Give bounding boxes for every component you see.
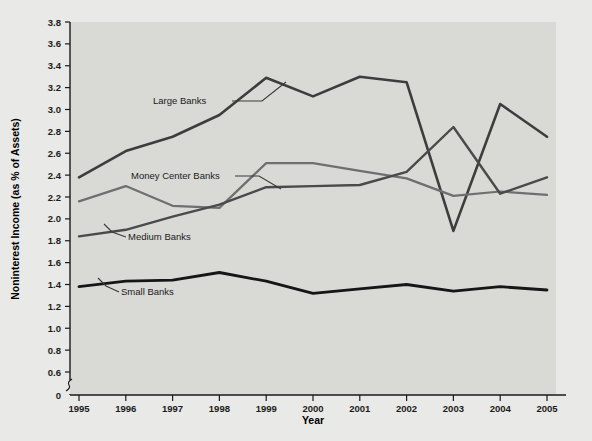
y-tick-label: 3.4: [48, 60, 62, 71]
y-tick-label: 0.8: [48, 345, 61, 356]
x-axis-ticks: [79, 395, 547, 401]
x-tick-label: 1998: [209, 403, 230, 414]
y-tick-label: 1.8: [48, 235, 61, 246]
y-axis-ticks: [65, 22, 70, 372]
x-axis-title: Year: [302, 414, 324, 426]
line-chart: 0.60.81.01.21.41.61.82.02.22.42.62.83.03…: [0, 0, 592, 441]
y-tick-label: 2.2: [48, 192, 61, 203]
y-tick-label: 2.4: [48, 170, 62, 181]
x-tick-label: 2005: [536, 403, 558, 414]
y-tick-label: 1.0: [48, 323, 61, 334]
y-tick-label: 1.4: [48, 279, 62, 290]
y-tick-label: 1.6: [48, 257, 61, 268]
y-tick-label: 3.8: [48, 17, 61, 28]
series-label-money-center-banks: Money Center Banks: [131, 170, 220, 181]
x-tick-label: 2004: [490, 403, 512, 414]
series-label-small-banks: Small Banks: [121, 286, 174, 297]
y-tick-label: 2.6: [48, 148, 61, 159]
y-tick-label: 1.2: [48, 301, 61, 312]
plot-area-background: [70, 22, 556, 395]
x-tick-label: 1996: [115, 403, 136, 414]
y-tick-label: 3.2: [48, 82, 61, 93]
chart-figure: Noninterest Income and ExpensesNonintere…: [0, 0, 592, 441]
x-tick-label: 2000: [302, 403, 323, 414]
y-tick-label: 2.0: [48, 213, 61, 224]
y-tick-label-zero: 0: [56, 390, 61, 401]
x-tick-label: 1995: [68, 403, 90, 414]
y-axis-title: Noninterest Income (as % of Assets): [9, 118, 21, 300]
y-axis-tick-labels: 0.60.81.01.21.41.61.82.02.22.42.62.83.03…: [48, 17, 62, 401]
y-tick-label: 3.0: [48, 104, 61, 115]
x-tick-label: 1999: [256, 403, 277, 414]
series-label-medium-banks: Medium Banks: [128, 231, 191, 242]
y-tick-label: 3.6: [48, 38, 61, 49]
x-tick-label: 2003: [443, 403, 464, 414]
x-tick-label: 1997: [162, 403, 183, 414]
y-tick-label: 2.8: [48, 126, 61, 137]
x-tick-label: 2002: [396, 403, 417, 414]
x-axis-tick-labels: 1995199619971998199920002001200220032004…: [68, 403, 558, 414]
series-label-large-banks: Large Banks: [153, 95, 207, 106]
x-tick-label: 2001: [349, 403, 371, 414]
y-tick-label: 0.6: [48, 367, 61, 378]
